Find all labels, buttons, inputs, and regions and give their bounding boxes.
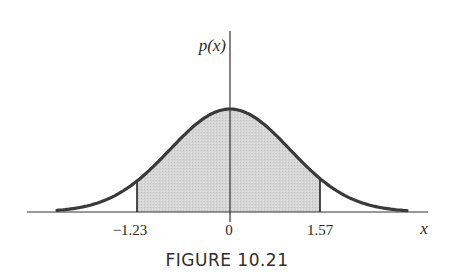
shaded-probability-region — [137, 109, 320, 212]
tick-label-zero: 0 — [225, 222, 233, 238]
figure-caption: FIGURE 10.21 — [0, 250, 454, 270]
normal-distribution-chart: p(x) x −1.23 0 1.57 — [0, 0, 454, 280]
tick-label-neg-1-23: −1.23 — [113, 222, 148, 238]
x-axis-label: x — [419, 219, 428, 238]
tick-label-1-57: 1.57 — [307, 222, 334, 238]
y-axis-label: p(x) — [198, 36, 227, 55]
